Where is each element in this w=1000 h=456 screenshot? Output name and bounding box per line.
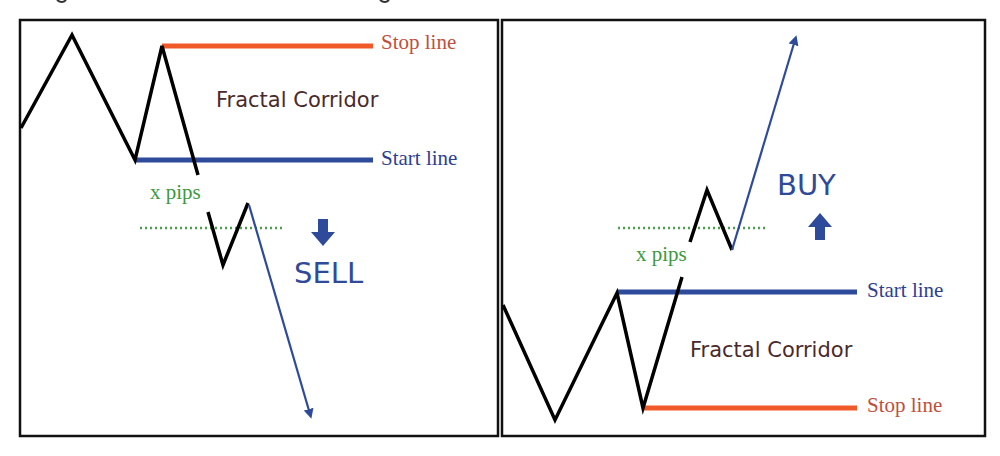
arrow-down-icon <box>311 219 335 246</box>
right-pips-label: x pips <box>636 242 687 267</box>
left-price-path <box>21 35 198 175</box>
sell-label: SELL <box>294 256 363 290</box>
right-stop-line-label: Stop line <box>867 393 942 418</box>
right-price-path-pullback <box>690 190 732 250</box>
right-buy-trend-arrow <box>732 40 795 250</box>
left-start-line-label: Start line <box>381 146 457 171</box>
buy-label: BUY <box>777 168 836 202</box>
right-price-path <box>503 277 682 420</box>
right-start-line-label: Start line <box>867 278 943 303</box>
left-panel-border <box>20 20 498 436</box>
diagram-canvas <box>0 0 1000 456</box>
left-price-path-pullback <box>208 203 248 265</box>
left-pips-label: x pips <box>150 180 201 205</box>
left-stop-line-label: Stop line <box>381 30 456 55</box>
cropped-title-glyph <box>380 0 389 2</box>
arrow-up-icon <box>808 213 832 240</box>
left-corridor-label: Fractal Corridor <box>216 88 378 112</box>
right-corridor-label: Fractal Corridor <box>690 338 852 362</box>
left-sell-trend-arrow <box>249 205 310 414</box>
cropped-title-glyph <box>57 0 66 2</box>
